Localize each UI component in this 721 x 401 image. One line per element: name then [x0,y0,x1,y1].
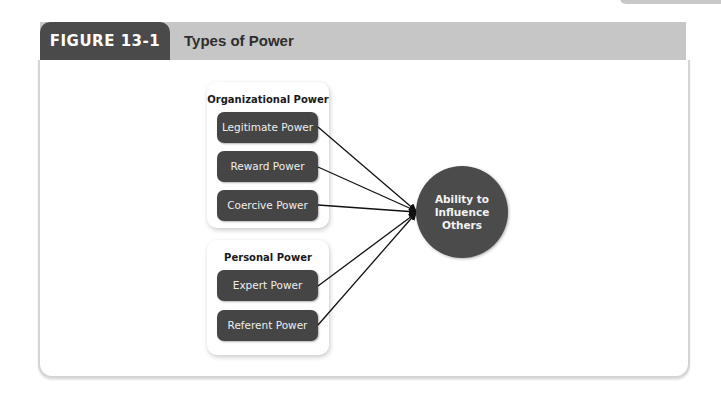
edge-referent [318,213,416,325]
edge-coercive [318,205,416,212]
connector-arrows [0,0,721,401]
target-label: Ability to Influence Others [430,193,494,232]
target-ability-to-influence: Ability to Influence Others [416,166,508,258]
edge-expert [318,213,416,286]
edge-legitimate [318,127,416,211]
edge-reward [318,167,416,211]
